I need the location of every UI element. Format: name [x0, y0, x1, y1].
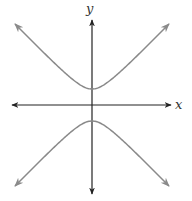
x-axis-label: x — [175, 98, 182, 111]
hyperbola-plot — [0, 0, 192, 201]
y-axis-label: y — [86, 2, 93, 15]
